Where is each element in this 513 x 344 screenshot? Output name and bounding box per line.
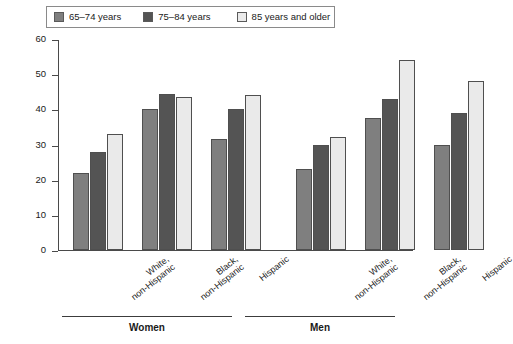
bar <box>176 97 192 250</box>
group-bracket-women: Women <box>62 316 232 333</box>
bar <box>228 109 244 250</box>
bar <box>296 169 312 250</box>
bar-group <box>434 40 485 250</box>
bar-group <box>73 40 124 250</box>
bar <box>399 60 415 250</box>
y-tick-label: 0 <box>41 244 46 255</box>
x-category-label: White,non-Hispanic <box>346 254 400 302</box>
plot-area <box>58 40 413 251</box>
y-tick-label: 30 <box>35 139 46 150</box>
legend-swatch-85-plus-icon <box>237 12 247 22</box>
bar <box>211 139 227 250</box>
bar-group <box>365 40 416 250</box>
legend-item-75-84: 75–84 years <box>143 12 210 22</box>
bar <box>468 81 484 250</box>
legend-swatch-75-84-icon <box>143 12 153 22</box>
bar <box>330 137 346 250</box>
bar-group <box>142 40 193 250</box>
bar <box>313 145 329 251</box>
x-category-label: Hispanic <box>480 254 513 283</box>
legend-label-75-84: 75–84 years <box>158 12 210 22</box>
bar <box>434 145 450 251</box>
bar-group <box>211 40 262 250</box>
y-tick-label: 10 <box>35 209 46 220</box>
bar <box>142 109 158 250</box>
x-category-label: White,non-Hispanic <box>123 254 177 302</box>
legend-label-85-plus: 85 years and older <box>252 12 331 22</box>
bar-group <box>296 40 347 250</box>
bar <box>365 118 381 250</box>
y-tick-label: 50 <box>35 68 46 79</box>
y-tick-label: 40 <box>35 103 46 114</box>
group-bracket-men: Men <box>245 316 395 333</box>
bar <box>159 94 175 250</box>
bar <box>451 113 467 250</box>
bar-groups <box>59 40 413 250</box>
group-label-men: Men <box>310 322 330 333</box>
legend-swatch-65-74-icon <box>54 12 64 22</box>
x-category-label: Black,non-Hispanic <box>192 254 246 302</box>
legend-label-65-74: 65–74 years <box>69 12 121 22</box>
legend-item-65-74: 65–74 years <box>54 12 121 22</box>
group-rule-women <box>62 316 232 317</box>
group-rule-men <box>245 316 395 317</box>
chart-legend: 65–74 years 75–84 years 85 years and old… <box>46 6 335 28</box>
y-tick-mark <box>52 251 58 252</box>
y-tick-label: 20 <box>35 174 46 185</box>
bar <box>107 134 123 250</box>
x-category-label: Black,non-Hispanic <box>415 254 469 302</box>
x-category-line1: Hispanic <box>257 254 290 283</box>
bar <box>245 95 261 250</box>
x-category-label: Hispanic <box>257 254 290 283</box>
bar <box>90 152 106 250</box>
x-category-line1: Hispanic <box>480 254 513 283</box>
y-tick-label: 60 <box>35 33 46 44</box>
bar <box>382 99 398 250</box>
group-label-women: Women <box>129 322 165 333</box>
bar <box>73 173 89 250</box>
legend-item-85-plus: 85 years and older <box>237 12 331 22</box>
